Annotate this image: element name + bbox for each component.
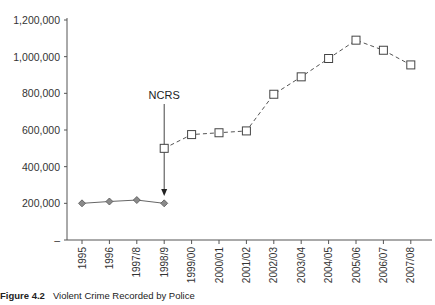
square-marker: [160, 144, 168, 152]
x-tick-label: 2005/06: [351, 247, 362, 284]
y-tick-label: 800,000: [22, 87, 60, 99]
square-marker: [188, 131, 196, 139]
y-tick-label: –: [54, 234, 60, 246]
square-marker: [352, 36, 360, 44]
x-tick-label: 2007/08: [405, 247, 416, 284]
square-marker: [270, 90, 278, 98]
x-tick-label: 1998/9: [159, 247, 170, 278]
x-tick-label: 1995: [77, 247, 88, 270]
x-tick-label: 2001/02: [241, 247, 252, 284]
y-tick-label: 1,200,000: [13, 14, 60, 26]
square-marker: [297, 73, 305, 81]
y-tick-label: 1,000,000: [13, 51, 60, 63]
data-series: [79, 36, 415, 207]
x-tick-label: 2004/05: [323, 247, 334, 284]
series-before-ncrs: [79, 197, 168, 207]
square-marker: [215, 129, 223, 137]
x-tick-label: 2006/07: [378, 247, 389, 284]
square-marker: [379, 46, 387, 54]
figure-title: Violent Crime Recorded by Police: [53, 290, 195, 301]
figure-label: Figure 4.2: [0, 290, 45, 301]
annotation-label: NCRS: [149, 89, 180, 101]
square-marker: [325, 55, 333, 63]
y-tick-label: 400,000: [22, 161, 60, 173]
figure-caption: Figure 4.2Violent Crime Recorded by Poli…: [0, 290, 195, 301]
square-marker: [242, 127, 250, 135]
diamond-marker: [79, 200, 86, 207]
x-tick-label: 2002/03: [268, 247, 279, 284]
ncrs-annotation: NCRS: [149, 89, 180, 196]
y-tick-label: 600,000: [22, 124, 60, 136]
x-tick-label: 1996: [104, 247, 115, 270]
x-tick-label: 1999/00: [186, 247, 197, 284]
square-marker: [407, 61, 415, 69]
diamond-marker: [106, 198, 113, 205]
arrow-down-icon: [161, 189, 167, 196]
y-tick-label: 200,000: [22, 197, 60, 209]
line-chart: –200,000400,000600,000800,0001,000,0001,…: [0, 0, 435, 290]
x-axis: 199519961997/81998/91999/002000/012001/0…: [67, 240, 432, 283]
series-after-ncrs: [160, 36, 415, 152]
diamond-marker: [161, 200, 168, 207]
diamond-marker: [133, 197, 140, 204]
x-tick-label: 2000/01: [214, 247, 225, 284]
y-axis: –200,000400,000600,000800,0001,000,0001,…: [13, 14, 67, 246]
x-tick-label: 1997/8: [131, 247, 142, 278]
x-tick-label: 2003/04: [296, 247, 307, 284]
